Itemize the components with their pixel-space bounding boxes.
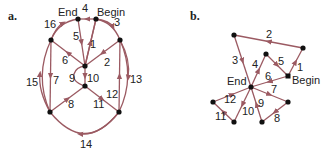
edge-label-a-11: 11 [93, 98, 104, 110]
edge-label-b-5: 5 [278, 55, 284, 67]
node-b-bottom-right [259, 119, 264, 124]
node-b-right [285, 99, 290, 104]
label-b-end: End [227, 75, 247, 87]
edge-label-a-10: 10 [87, 72, 99, 84]
label-b-begin: Begin [292, 74, 320, 86]
panel-b-label: b. [190, 9, 200, 23]
edge-label-b-4: 4 [252, 58, 258, 70]
euler-path-figure: a. [0, 0, 330, 157]
edge-a-7 [50, 40, 51, 112]
edge-label-b-8: 8 [274, 112, 280, 124]
edge-a-12 [119, 40, 120, 112]
node-a-lower [82, 83, 87, 88]
edge-label-b-6: 6 [265, 70, 271, 82]
edge-a-5 [78, 19, 85, 66]
panel-a: a. [8, 2, 142, 150]
edge-a-9 [74, 66, 85, 86]
edge-label-a-16: 16 [44, 18, 56, 30]
edge-label-b-9: 9 [258, 97, 264, 109]
edge-label-b-2: 2 [266, 28, 272, 40]
panel-b: b. End Be [190, 9, 320, 125]
edge-label-a-6: 6 [62, 54, 68, 66]
node-a-left-top [48, 37, 53, 42]
edge-label-b-12: 12 [224, 93, 236, 105]
edge-label-b-11: 11 [215, 110, 226, 122]
edge-label-a-4: 4 [82, 2, 88, 14]
edge-label-a-13: 13 [130, 73, 142, 85]
node-b-bottom-left [231, 119, 236, 124]
edge-label-b-10: 10 [242, 105, 254, 117]
edge-label-a-15: 15 [26, 76, 38, 88]
panel-a-label: a. [8, 9, 17, 23]
edge-label-b-7: 7 [271, 83, 277, 95]
edge-label-a-3: 3 [114, 16, 120, 28]
node-b-peak [263, 51, 268, 56]
node-a-left-bottom [47, 109, 52, 114]
edge-label-a-8: 8 [68, 98, 74, 110]
edge-label-a-2: 2 [104, 56, 110, 68]
node-b-left [210, 99, 215, 104]
edge-label-b-3: 3 [232, 54, 238, 66]
node-a-right-bottom [116, 109, 121, 114]
edge-label-a-7: 7 [53, 74, 59, 86]
node-a-hub [82, 63, 87, 68]
edge-label-a-12: 12 [106, 88, 118, 100]
label-a-begin: Begin [97, 6, 125, 18]
edge-b-7 [251, 87, 288, 102]
label-a-end: End [58, 6, 78, 18]
node-b-begin [286, 74, 291, 79]
node-b-top-right [300, 45, 305, 50]
edge-label-a-14: 14 [80, 138, 92, 150]
node-b-end [248, 84, 253, 89]
edge-label-b-1: 1 [297, 61, 303, 73]
edge-label-a-9: 9 [69, 72, 75, 84]
edge-label-a-1: 1 [90, 38, 96, 50]
node-a-right-top [117, 37, 122, 42]
edge-label-a-5: 5 [73, 30, 79, 42]
node-b-top-left [231, 32, 236, 37]
